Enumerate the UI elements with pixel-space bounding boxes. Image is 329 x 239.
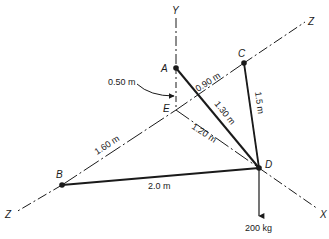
x-axis (259, 168, 318, 209)
point-a-marker (173, 65, 179, 71)
point-d-label: D (265, 159, 272, 170)
y-axis-label: Y (172, 5, 180, 16)
point-c-marker (241, 60, 247, 66)
dim-ed: 1.20 m (190, 121, 219, 144)
point-e-label: E (163, 103, 170, 114)
statics-diagram: Y Z Z X A C E B D 0.50 m 0.90 m 1.30 m 1… (0, 0, 329, 239)
dim-bd: 2.0 m (148, 181, 171, 191)
dim-ae-offset: 0.50 m (108, 77, 136, 87)
point-a-label: A (160, 63, 168, 74)
load-label: 200 kg (245, 223, 272, 233)
dim-ec: 0.90 m (194, 70, 223, 93)
dim-ad: 1.30 m (212, 99, 237, 127)
point-b-label: B (56, 169, 63, 180)
z-axis-label-top: Z (307, 16, 315, 27)
dim-cd: 1.5 m (253, 91, 266, 115)
point-d-marker (256, 165, 262, 171)
dim-be: 1.60 m (93, 133, 122, 156)
segment-be (62, 110, 176, 185)
z-axis-lower (16, 185, 62, 212)
x-axis-label: X (319, 209, 327, 220)
z-axis-upper (244, 22, 305, 63)
offset-leader-arrow (137, 84, 174, 96)
point-c-label: C (238, 48, 246, 59)
point-b-marker (59, 182, 65, 188)
z-axis-label-bottom: Z (4, 209, 12, 220)
